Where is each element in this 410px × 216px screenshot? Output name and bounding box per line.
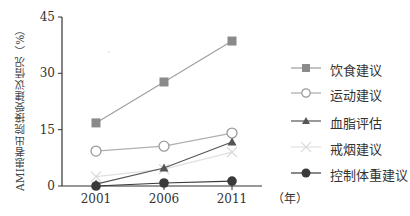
data-point-marker [159,178,169,188]
x-tick-label: 2011 [217,192,248,206]
x-tick-label: 2006 [149,192,180,206]
legend-label: 戒烟建议 [330,139,382,158]
legend-label: 血脂评估 [330,113,382,132]
y-tick-label: 45 [40,10,55,24]
legend-item-smoking: 戒烟建议 [290,137,410,157]
y-axis-title: AMI患者出院接受建议情况（%） [12,20,30,195]
y-tick-label: 0 [47,179,55,193]
y-tick-label: 30 [40,66,55,80]
chart-series [91,37,237,191]
data-point-marker [228,138,237,146]
legend-label: 运动建议 [330,85,382,104]
data-point-marker [160,163,169,171]
x-axis-unit: （年） [272,192,308,206]
legend-item-weight: 控制体重建议 [290,163,410,183]
data-point-marker [91,146,101,156]
data-point-marker [227,147,237,157]
x-marker-icon [290,137,322,157]
open-circle-marker-icon [290,83,322,103]
chart-axes: 0153045200120062011（年） [40,10,308,206]
legend-item-lipid: 血脂评估 [290,111,410,131]
data-point-marker [227,128,237,138]
data-point-marker [160,77,169,86]
legend-label: 控制体重建议 [330,165,408,184]
data-point-marker [91,181,101,191]
triangle-marker-icon [290,111,322,131]
legend-item-diet: 饮食建议 [290,58,410,78]
filled-circle-marker-icon [290,163,322,183]
y-tick-label: 15 [40,123,55,137]
data-point-marker [227,176,237,186]
square-marker-icon [290,58,322,78]
data-point-marker [92,118,101,127]
x-tick-label: 2001 [81,192,112,206]
legend-item-exercise: 运动建议 [290,83,410,103]
data-point-marker [228,37,237,46]
legend-label: 饮食建议 [330,60,382,79]
data-point-marker [159,141,169,151]
